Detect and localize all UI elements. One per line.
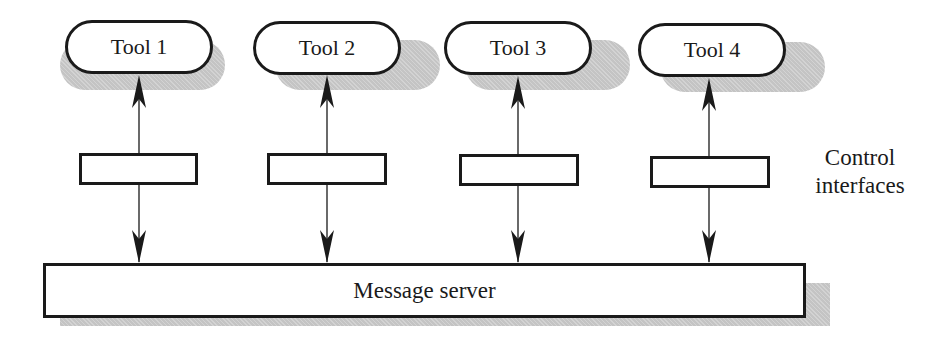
connector-arrows (0, 0, 944, 347)
